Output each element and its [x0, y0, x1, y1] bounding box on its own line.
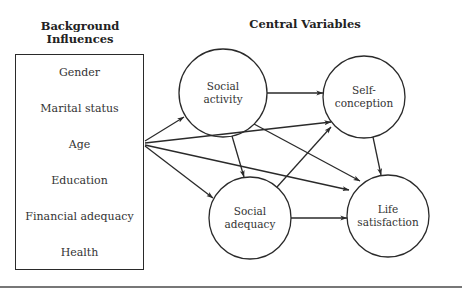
arrow-background-to-social-adequacy	[145, 146, 213, 198]
arrow-background-to-self-conception	[145, 122, 331, 143]
arrow-social-activity-to-social-adequacy	[232, 136, 244, 177]
arrow-background-to-social-activity	[145, 117, 184, 141]
label-line: activity	[183, 93, 263, 106]
arrow-background-to-life-satisfaction	[145, 145, 349, 190]
label-line: satisfaction	[344, 216, 432, 229]
self-conception-label: Self- conception	[320, 84, 408, 110]
label-line: Social	[183, 80, 263, 93]
arrow-social-adequacy-to-self-conception	[277, 127, 331, 187]
label-line: adequacy	[210, 218, 290, 231]
social-activity-label: Social activity	[183, 80, 263, 106]
social-adequacy-label: Social adequacy	[210, 205, 290, 231]
label-line: Life	[344, 203, 432, 216]
path-diagram	[0, 0, 467, 292]
bottom-rule	[0, 286, 462, 288]
label-line: conception	[320, 97, 408, 110]
life-satisfaction-label: Life satisfaction	[344, 203, 432, 229]
label-line: Self-	[320, 84, 408, 97]
label-line: Social	[210, 205, 290, 218]
arrow-self-conception-to-life-satisfaction	[373, 137, 381, 175]
